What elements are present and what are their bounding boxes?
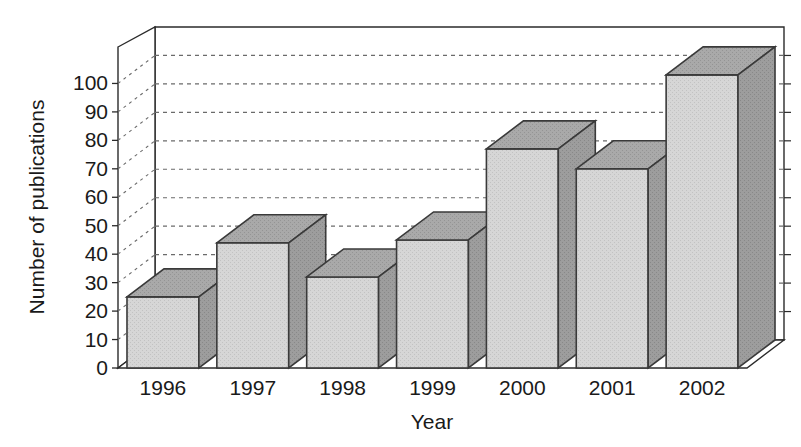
x-tick-label-1998: 1998 — [319, 376, 366, 399]
y-tick-label: 20 — [85, 299, 108, 322]
x-tick-label-1996: 1996 — [140, 376, 187, 399]
y-tick-label: 10 — [85, 328, 108, 351]
x-tick-label-2001: 2001 — [589, 376, 636, 399]
bar-front-face — [397, 240, 469, 368]
bar-2002 — [666, 47, 775, 368]
x-tick-label-2002: 2002 — [679, 376, 726, 399]
y-tick-label: 70 — [85, 157, 108, 180]
bar-front-face — [127, 297, 199, 368]
bar-front-face — [666, 75, 738, 368]
bar-side-face — [738, 47, 775, 368]
bar-front-face — [217, 243, 289, 368]
y-tick-label: 90 — [85, 100, 108, 123]
y-axis-title: Number of publications — [25, 100, 48, 315]
x-tick-label-1999: 1999 — [409, 376, 456, 399]
y-tick-label: 50 — [85, 214, 108, 237]
bar-chart-figure: 0102030405060708090100 19961997199819992… — [0, 0, 801, 447]
y-tick-label: 80 — [85, 128, 108, 151]
y-tick-label: 30 — [85, 271, 108, 294]
y-tick-label: 100 — [73, 71, 108, 94]
y-tick-label: 60 — [85, 185, 108, 208]
bar-front-face — [307, 277, 379, 368]
x-axis-title: Year — [411, 410, 453, 433]
y-tick-label: 0 — [96, 356, 108, 379]
y-tick-label: 40 — [85, 242, 108, 265]
chart-canvas: 0102030405060708090100 19961997199819992… — [0, 0, 801, 447]
bar-front-face — [486, 149, 558, 368]
x-tick-label-2000: 2000 — [499, 376, 546, 399]
x-tick-label-1997: 1997 — [229, 376, 276, 399]
bar-front-face — [576, 169, 648, 368]
